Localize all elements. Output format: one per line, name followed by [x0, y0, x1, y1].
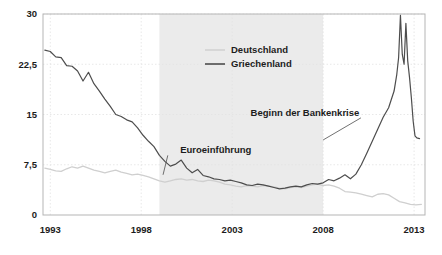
line-chart: 07,51522,53019931998200320082013Deutschl… [0, 0, 442, 255]
x-axis-tick-label: 2003 [222, 224, 243, 235]
annotation-label-euroeinfuehrung: Euroeinführung [180, 144, 251, 155]
y-axis-tick-label: 30 [26, 8, 37, 19]
y-axis-tick-label: 0 [32, 209, 37, 220]
x-axis-tick-label: 1993 [40, 224, 61, 235]
y-axis-tick-label: 15 [26, 109, 37, 120]
x-axis-tick-label: 2008 [313, 224, 334, 235]
x-axis-tick-label: 2013 [404, 224, 425, 235]
y-axis-tick-label: 22,5 [19, 59, 38, 70]
y-axis-tick-label: 7,5 [24, 159, 38, 170]
annotation-leader-line [323, 118, 361, 140]
legend-label-griechenland: Griechenland [231, 58, 292, 69]
x-axis-tick-label: 1998 [131, 224, 152, 235]
chart-container: 07,51522,53019931998200320082013Deutschl… [0, 0, 442, 255]
legend-label-deutschland: Deutschland [231, 44, 288, 55]
annotation-label-bankenkrise: Beginn der Bankenkrise [251, 107, 360, 118]
